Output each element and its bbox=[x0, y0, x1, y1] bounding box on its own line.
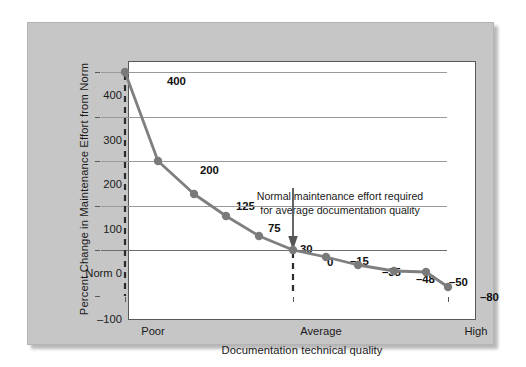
chart-figure: Percent Change in Maintenance Effort fro… bbox=[0, 0, 526, 367]
y-axis-tick-labels: 400 300 200 100 Norm 0 –100 bbox=[55, 23, 122, 367]
y-tick-200: 200 bbox=[103, 178, 122, 190]
chart-panel: Percent Change in Maintenance Effort fro… bbox=[27, 22, 494, 345]
x-tick-average: Average bbox=[300, 325, 341, 337]
y-tick-norm-0: Norm 0 bbox=[85, 267, 122, 279]
y-tick-100: 100 bbox=[103, 223, 122, 235]
data-label-m48: –48 bbox=[416, 273, 435, 285]
x-tick-poor: Poor bbox=[141, 325, 165, 337]
data-label-0: 0 bbox=[327, 256, 333, 268]
data-label-75: 75 bbox=[268, 222, 280, 234]
data-label-m50: –50 bbox=[449, 276, 468, 288]
x-tick-high: High bbox=[464, 325, 487, 337]
data-label-m15: –15 bbox=[350, 255, 369, 267]
y-tick-300: 300 bbox=[103, 134, 122, 146]
data-label-30: 30 bbox=[300, 243, 312, 255]
data-label-m35: –35 bbox=[382, 266, 401, 278]
annotation-line-2: for average documentation quality bbox=[250, 204, 430, 218]
y-tick-400: 400 bbox=[103, 89, 122, 101]
data-label-400: 400 bbox=[167, 75, 186, 87]
annotation-text: Normal maintenance effort required for a… bbox=[250, 190, 430, 217]
annotation-line-1: Normal maintenance effort required bbox=[250, 190, 430, 204]
x-axis-title: Documentation technical quality bbox=[128, 344, 476, 356]
y-tick-minus-100: –100 bbox=[97, 313, 122, 325]
data-label-m80: –80 bbox=[480, 291, 499, 303]
data-label-200: 200 bbox=[200, 164, 219, 176]
